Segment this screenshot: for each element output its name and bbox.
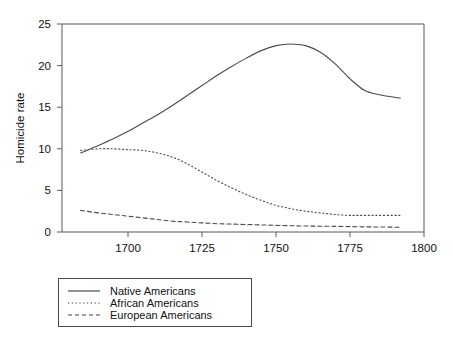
y-tick-label-10: 10: [38, 143, 51, 155]
x-axis-ticks: [128, 232, 424, 237]
x-tick-label-1725: 1725: [189, 242, 215, 254]
y-tick-label-0: 0: [45, 226, 51, 238]
homicide-rate-line-chart: 0 5 10 15 20 25 Homicide rate 1700 1725 …: [0, 0, 453, 340]
legend-label-african-americans: African Americans: [110, 297, 199, 309]
y-tick-label-5: 5: [45, 184, 51, 196]
x-tick-label-1750: 1750: [263, 242, 289, 254]
y-tick-label-15: 15: [38, 101, 51, 113]
y-axis-ticks: [57, 24, 62, 232]
chart-legend: Native Americans African Americans Europ…: [59, 279, 252, 327]
plot-frame: [62, 24, 424, 232]
legend-label-european-americans: European Americans: [110, 309, 213, 321]
series-layer: [81, 44, 401, 227]
legend-label-native-americans: Native Americans: [110, 285, 196, 297]
chart-figure: 0 5 10 15 20 25 Homicide rate 1700 1725 …: [0, 0, 453, 340]
series-line-african-americans: [81, 149, 401, 216]
x-tick-label-1775: 1775: [337, 242, 363, 254]
series-line-european-americans: [81, 210, 401, 227]
x-tick-label-1700: 1700: [115, 242, 141, 254]
y-tick-label-20: 20: [38, 60, 51, 72]
series-line-native-americans: [81, 44, 401, 153]
x-tick-label-1800: 1800: [411, 242, 437, 254]
y-tick-label-25: 25: [38, 18, 51, 30]
y-axis-title: Homicide rate: [14, 93, 26, 164]
